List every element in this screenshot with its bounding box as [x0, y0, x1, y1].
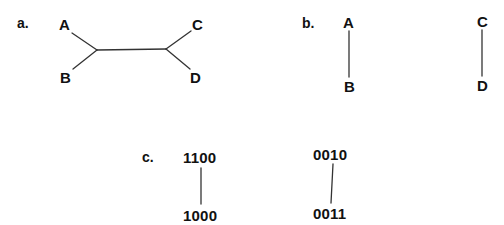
- panel-a-label: a.: [17, 15, 29, 31]
- edge-a-internal: [97, 49, 166, 50]
- node-c-0010: 0010: [313, 146, 347, 163]
- node-c-1100: 1100: [183, 149, 216, 166]
- node-a-A: A: [59, 16, 70, 33]
- panel-b-label: b.: [302, 15, 314, 31]
- tree-diagram: a. A B C D b. A B C D c. 1100 1000 0010 …: [0, 0, 504, 225]
- panel-b: b. A B C D: [302, 13, 488, 95]
- edge-a-B-junction: [73, 50, 97, 69]
- node-b-A: A: [343, 14, 354, 31]
- node-a-C: C: [192, 16, 203, 33]
- edge-a-A-junction: [72, 33, 97, 50]
- node-b-D: D: [477, 77, 488, 94]
- node-a-D: D: [190, 69, 201, 86]
- panel-c-label: c.: [142, 149, 154, 165]
- panel-a: a. A B C D: [17, 15, 203, 86]
- node-c-0011: 0011: [313, 205, 346, 222]
- edge-a-C-junction: [166, 31, 191, 49]
- node-a-B: B: [60, 69, 71, 86]
- node-c-1000: 1000: [183, 207, 217, 224]
- panel-c: c. 1100 1000 0010 0011: [142, 146, 347, 224]
- edge-c-0010-0011: [331, 164, 333, 203]
- node-b-C: C: [477, 13, 488, 30]
- node-b-B: B: [344, 78, 355, 95]
- edge-a-D-junction: [166, 49, 190, 69]
